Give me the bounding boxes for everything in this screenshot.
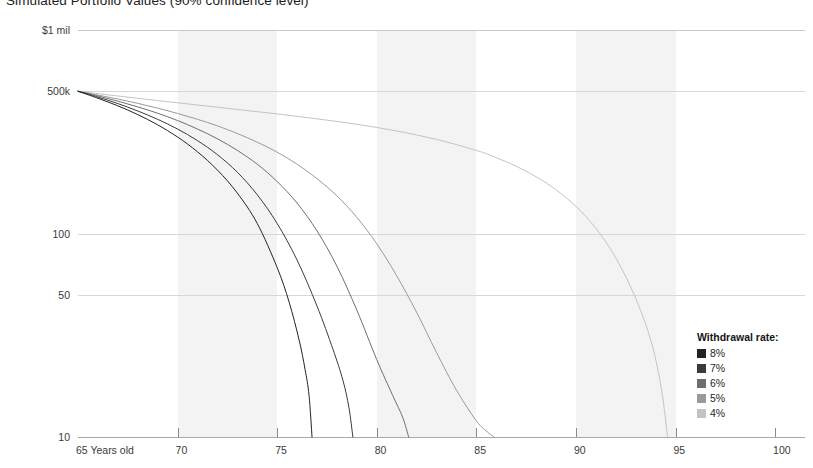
legend-item[interactable]: 5%	[697, 391, 797, 406]
x-axis-tick-label: 85	[474, 444, 486, 456]
legend-item[interactable]: 6%	[697, 376, 797, 391]
gridline	[78, 437, 805, 438]
legend-item[interactable]: 8%	[697, 346, 797, 361]
legend-swatch-icon	[697, 379, 706, 388]
series-line-7pct	[78, 91, 353, 437]
legend-item-label: 6%	[710, 378, 725, 389]
legend-item-label: 8%	[710, 348, 725, 359]
legend-item[interactable]: 7%	[697, 361, 797, 376]
y-axis-tick-label: $1 mil	[42, 24, 70, 36]
legend-item-label: 5%	[710, 393, 725, 404]
plot-area: $1 mil500k1005010 65 Years old7075808590…	[78, 30, 805, 437]
legend-item[interactable]: 4%	[697, 406, 797, 421]
legend-entries: 8%7%6%5%4%	[697, 346, 797, 421]
series-curves	[78, 30, 805, 437]
legend-swatch-icon	[697, 409, 706, 418]
chart-title: Simulated Portfolio Values (90% confiden…	[6, 0, 309, 8]
legend-swatch-icon	[697, 349, 706, 358]
x-axis-tick-label: 90	[574, 444, 586, 456]
x-axis-tick-label: 65 Years old	[76, 444, 134, 456]
legend-item-label: 4%	[710, 408, 725, 419]
x-axis-tick-label: 75	[275, 444, 287, 456]
y-axis-tick-label: 10	[58, 431, 70, 443]
series-line-6pct	[78, 91, 409, 437]
series-line-5pct	[78, 91, 494, 437]
x-axis-tick-label: 95	[674, 444, 686, 456]
y-axis-tick-label: 50	[58, 289, 70, 301]
y-axis-tick-label: 100	[52, 228, 70, 240]
x-axis-tick-label: 100	[773, 444, 791, 456]
legend-swatch-icon	[697, 394, 706, 403]
legend-swatch-icon	[697, 364, 706, 373]
series-line-8pct	[78, 91, 312, 437]
x-axis-tick-label: 80	[375, 444, 387, 456]
series-line-4pct	[78, 91, 668, 437]
chart-container: Simulated Portfolio Values (90% confiden…	[0, 0, 813, 468]
y-axis-tick-label: 500k	[47, 85, 70, 97]
legend: Withdrawal rate: 8%7%6%5%4%	[697, 331, 797, 421]
x-axis-tick-label: 70	[176, 444, 188, 456]
legend-item-label: 7%	[710, 363, 725, 374]
legend-title: Withdrawal rate:	[697, 331, 797, 343]
